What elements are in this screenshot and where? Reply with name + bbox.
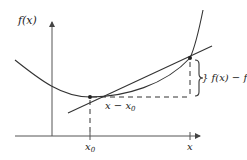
vertical-diff-label: } f(x) − f(x0) [202,72,247,85]
diagram-canvas: f(x) x − x0 } f(x) − f(x0) x0 x [0,0,247,160]
horizontal-diff-main: x − x [105,100,131,111]
tick-label-x0: x0 [85,141,96,154]
tick-label-x: x [187,141,193,152]
function-curve [15,10,203,97]
point-x0 [88,95,92,99]
vertical-diff-main: } f(x) − f(x [202,72,247,83]
y-axis-label: f(x) [17,14,37,27]
tick-label-x0-sub: 0 [91,146,96,154]
point-x [188,56,192,60]
horizontal-diff-label: x − x0 [105,100,136,113]
horizontal-diff-sub: 0 [131,105,136,113]
